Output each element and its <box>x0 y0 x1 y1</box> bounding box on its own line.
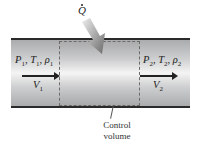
inlet-velocity-label: V1 <box>33 79 43 93</box>
heat-label: Q <box>78 4 86 16</box>
control-volume-label-line2: volume <box>97 131 137 142</box>
inlet-state-label: P1, T1, ρ1 <box>15 54 53 68</box>
pipe-bottom-wall <box>11 106 190 108</box>
control-volume-label: Control volume <box>97 120 137 142</box>
control-volume-label-line1: Control <box>97 120 137 131</box>
heat-arrow-icon <box>80 16 110 56</box>
inlet-flow-arrow-icon <box>22 75 55 77</box>
outlet-flow-arrow-icon <box>140 75 173 77</box>
outlet-state-label: P2, T2, ρ2 <box>143 54 181 68</box>
outlet-velocity-label: V2 <box>153 79 163 93</box>
